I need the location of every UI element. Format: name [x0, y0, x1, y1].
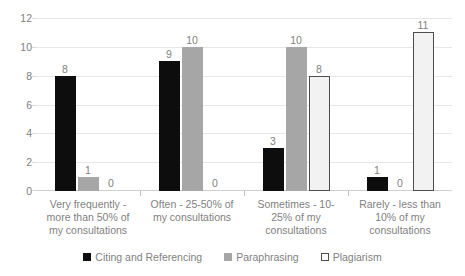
bar-value-label: 1	[85, 165, 91, 176]
bar-slot: 0	[390, 18, 411, 191]
bar-plagiarism[interactable]	[413, 32, 434, 191]
bar-paraphrasing[interactable]	[182, 47, 203, 191]
x-axis-category-label: Rarely - less than 10% of my consultatio…	[348, 198, 452, 237]
bar-group: 9 10 0	[140, 18, 244, 191]
bar-group: 8 1 0	[36, 18, 140, 191]
bar-value-label: 3	[270, 136, 276, 147]
bar-groups: 8 1 0 9 10 0	[36, 18, 452, 191]
legend-swatch-icon	[321, 253, 329, 261]
legend-label: Paraphrasing	[236, 251, 298, 263]
bar-value-label: 9	[166, 49, 172, 60]
y-axis: 12 10 8 6 4 2 0	[0, 18, 32, 191]
legend-item-citing-and-referencing[interactable]: Citing and Referencing	[83, 251, 202, 263]
bar-plagiarism[interactable]	[309, 76, 330, 191]
y-tick-label: 12	[0, 13, 32, 23]
bar-value-label: 10	[290, 35, 302, 46]
bar-value-label: 10	[186, 35, 198, 46]
legend-swatch-icon	[83, 253, 91, 261]
bar-slot: 10	[286, 18, 307, 191]
bar-slot: 11	[413, 18, 434, 191]
bar-citing-and-referencing[interactable]	[263, 148, 284, 191]
bar-value-label: 0	[108, 178, 114, 189]
bar-slot: 10	[182, 18, 203, 191]
bar-citing-and-referencing[interactable]	[367, 177, 388, 191]
y-tick-label: 2	[0, 157, 32, 167]
legend-swatch-icon	[224, 253, 232, 261]
bar-slot: 9	[159, 18, 180, 191]
bar-group: 1 0 11	[348, 18, 452, 191]
x-axis-categories: Very frequently - more than 50% of my co…	[36, 198, 452, 237]
y-tick-label: 8	[0, 71, 32, 81]
bar-slot: 1	[78, 18, 99, 191]
bar-slot: 8	[55, 18, 76, 191]
bar-slot: 0	[101, 18, 122, 191]
legend-label: Citing and Referencing	[95, 251, 202, 263]
bar-group: 3 10 8	[244, 18, 348, 191]
y-tick-label: 10	[0, 42, 32, 52]
bar-slot: 3	[263, 18, 284, 191]
bar-citing-and-referencing[interactable]	[159, 61, 180, 191]
bar-value-label: 8	[316, 64, 322, 75]
y-tick-label: 4	[0, 128, 32, 138]
x-axis-category-label: Sometimes - 10-25% of my consultations	[244, 198, 348, 237]
bar-value-label: 0	[212, 178, 218, 189]
y-tick-label: 0	[0, 186, 32, 196]
bar-slot: 1	[367, 18, 388, 191]
chart-legend: Citing and Referencing Paraphrasing Plag…	[0, 251, 465, 263]
legend-item-paraphrasing[interactable]: Paraphrasing	[224, 251, 298, 263]
bar-value-label: 8	[62, 64, 68, 75]
bar-slot: 0	[205, 18, 226, 191]
bar-chart: 12 10 8 6 4 2 0 8 1 0	[0, 0, 465, 276]
bar-value-label: 1	[374, 165, 380, 176]
y-tick-label: 6	[0, 100, 32, 110]
bar-value-label: 0	[397, 178, 403, 189]
legend-item-plagiarism[interactable]: Plagiarism	[321, 251, 382, 263]
bar-slot: 8	[309, 18, 330, 191]
bar-value-label: 11	[418, 20, 429, 31]
legend-label: Plagiarism	[333, 251, 382, 263]
x-axis-category-label: Very frequently - more than 50% of my co…	[36, 198, 140, 237]
x-axis-category-label: Often - 25-50% of my consultations	[140, 198, 244, 237]
bar-citing-and-referencing[interactable]	[55, 76, 76, 191]
bar-paraphrasing[interactable]	[286, 47, 307, 191]
bar-paraphrasing[interactable]	[78, 177, 99, 191]
